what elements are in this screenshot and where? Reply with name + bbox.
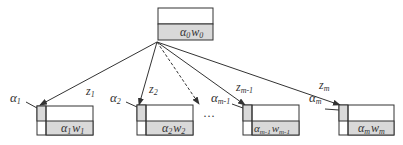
child-node-2: α2w2 α2	[110, 90, 193, 136]
z-label-m-1: zm-1	[235, 80, 253, 95]
edge-1	[40, 42, 157, 105]
child-node-1: α1w1 α1	[10, 90, 93, 136]
edge-dashed	[157, 42, 199, 104]
alpha-label-2: α2	[110, 90, 121, 106]
z-label-2: z2	[148, 82, 158, 97]
alpha-label-1: α1	[10, 90, 21, 106]
root-node: α0w0	[158, 8, 213, 40]
ellipsis: ···	[203, 109, 215, 123]
edge-m-1	[157, 42, 245, 105]
child-node-m: αmwm αm	[309, 90, 394, 136]
z-label-1: z1	[85, 84, 95, 99]
tree-diagram: α0w0 z1 z2 zm-1 zm α1w1 α1 α2w2 α2 ···	[0, 0, 403, 145]
z-label-m: zm	[318, 78, 330, 93]
alpha-label-m: αm	[309, 90, 322, 106]
child-node-m-1: αm-1wm-1 αm-1	[211, 90, 299, 136]
edges	[40, 42, 340, 105]
